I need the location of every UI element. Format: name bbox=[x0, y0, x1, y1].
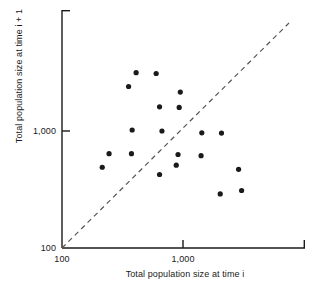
scatter-plot-figure: Total population size at time i + 1 Tota… bbox=[0, 0, 330, 292]
data-point bbox=[126, 84, 131, 89]
data-point bbox=[174, 163, 179, 168]
axis-lines bbox=[62, 10, 305, 248]
data-point bbox=[157, 172, 162, 177]
y-axis-label-text: Total population size at time i + 1 bbox=[14, 9, 24, 143]
data-point bbox=[178, 90, 183, 95]
data-point bbox=[236, 167, 241, 172]
y-tick-label-100: 100 bbox=[30, 243, 56, 253]
x-tick-label-100: 100 bbox=[48, 254, 76, 264]
data-point bbox=[129, 151, 134, 156]
data-point bbox=[175, 152, 180, 157]
data-point bbox=[218, 191, 223, 196]
data-point bbox=[177, 105, 182, 110]
y-tick-label-1000: 1,000 bbox=[22, 126, 56, 136]
data-point bbox=[159, 128, 164, 133]
data-point bbox=[198, 153, 203, 158]
x-axis-label: Total population size at time i bbox=[62, 269, 308, 279]
data-point bbox=[157, 104, 162, 109]
data-point bbox=[130, 127, 135, 132]
data-point bbox=[100, 165, 105, 170]
data-point bbox=[219, 130, 224, 135]
y-axis-label: Total population size at time i + 1 bbox=[13, 0, 45, 171]
data-point bbox=[154, 71, 159, 76]
data-point bbox=[239, 188, 244, 193]
reference-line-diagonal bbox=[62, 23, 289, 248]
data-point bbox=[134, 70, 139, 75]
x-tick-label-1000: 1,000 bbox=[165, 254, 201, 264]
data-point bbox=[199, 130, 204, 135]
data-point bbox=[106, 151, 111, 156]
